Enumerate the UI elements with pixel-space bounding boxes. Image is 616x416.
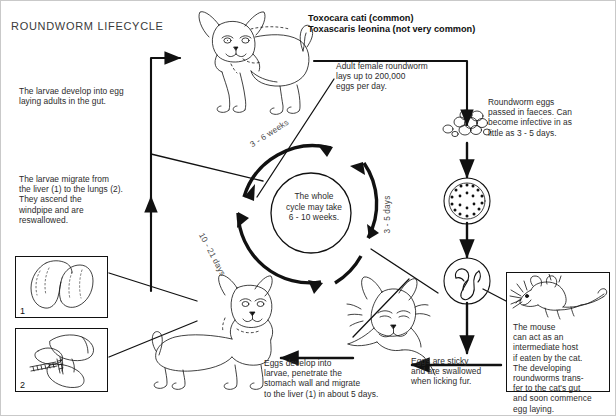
cycle-centre-note: The whole cycle may take 6 - 10 weeks. xyxy=(275,191,353,223)
arc-label-10-21-days: 10 - 21 days xyxy=(197,231,227,277)
arrowhead-arc-bottom xyxy=(308,280,323,294)
arrowhead-arc-top xyxy=(317,144,333,157)
note-larvae-migrate: The larvae migrate from the liver (1) to… xyxy=(19,174,169,225)
arc-3-6-weeks xyxy=(244,146,331,197)
arrowhead-arc-bottom-left xyxy=(237,212,249,228)
adult-cat-illustration xyxy=(183,7,315,119)
page-title: ROUNDWORM LIFECYCLE xyxy=(11,21,164,31)
liver-illustration xyxy=(16,257,107,317)
roundworm-lifecycle-diagram: ROUNDWORM LIFECYCLE Toxocara cati (commo… xyxy=(0,0,616,416)
organ-number-2: 2 xyxy=(20,380,25,390)
arrowhead-arc-right-top xyxy=(350,162,365,175)
organ-box-liver: 1 xyxy=(15,256,108,318)
note-eggs-in-faeces: Roundworm eggs passed in faeces. Can bec… xyxy=(488,97,613,138)
egg-with-larva-illustration xyxy=(442,256,492,306)
species-names: Toxocara cati (common) Toxascaris leonin… xyxy=(308,13,475,36)
arc-3-5-days xyxy=(364,163,377,238)
organ-number-1: 1 xyxy=(20,306,25,316)
note-eggs-sticky: Eggs are sticky and are swallowed when l… xyxy=(411,356,511,387)
organ-box-lungs: 2 xyxy=(15,328,108,392)
arc-label-3-5-days: 3 - 5 days xyxy=(383,196,392,234)
note-adult-female-roundworm: Adult female roundworm lays up to 200,00… xyxy=(336,61,491,92)
arrowhead-arc-right-bottom xyxy=(367,224,379,239)
arc-label-3-6-weeks: 3 - 6 weeks xyxy=(249,118,291,150)
mouse-box: The mouse can act as an intermediate hos… xyxy=(506,272,610,392)
mouse-illustration xyxy=(509,274,609,320)
mouse-note: The mouse can act as an intermediate hos… xyxy=(513,322,605,414)
lungs-illustration xyxy=(16,329,107,391)
arrowhead-arc-left xyxy=(244,184,255,201)
note-larvae-develop-adults: The larvae develop into egg laying adult… xyxy=(19,86,179,106)
egg-granular-illustration xyxy=(442,176,492,226)
